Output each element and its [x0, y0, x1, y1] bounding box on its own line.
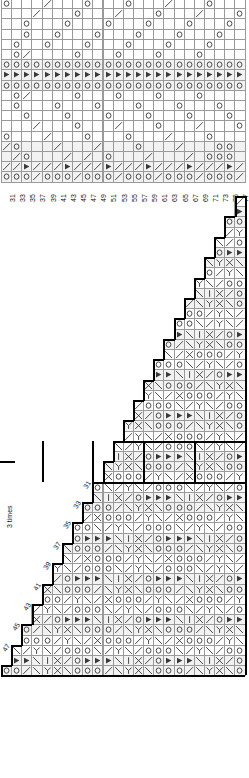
column-label: 39	[50, 194, 57, 202]
column-label: 51	[110, 194, 117, 202]
column-label: 69	[202, 194, 209, 202]
repeat-note: 3 times	[6, 505, 13, 528]
column-label: 35	[29, 194, 36, 202]
column-label: 37	[39, 194, 46, 202]
column-label: 61	[161, 194, 168, 202]
outline-bottom	[1, 675, 245, 677]
column-label: 41	[60, 194, 67, 202]
column-label: 49	[100, 194, 107, 202]
column-label: 31	[9, 194, 16, 202]
row-label: 39	[42, 561, 52, 571]
row-label: 37	[52, 540, 62, 550]
column-label: 73	[222, 194, 229, 202]
row-label: 43	[22, 601, 32, 611]
column-label: 59	[151, 194, 158, 202]
chart-page: 3133353739414345474951535557596163656769…	[0, 0, 249, 778]
column-label: 33	[19, 194, 26, 202]
repeat-tick	[42, 441, 44, 482]
column-label: 45	[80, 194, 87, 202]
column-label: 57	[141, 194, 148, 202]
row-label: 41	[32, 581, 42, 591]
column-label: 53	[121, 194, 128, 202]
column-label: 63	[171, 194, 178, 202]
repeat-boundary	[92, 482, 244, 484]
outline-right	[245, 196, 247, 675]
column-label: 43	[70, 194, 77, 202]
row-label: 45	[11, 622, 21, 632]
repeat-pointer	[0, 461, 15, 463]
chart-cell	[234, 171, 245, 182]
column-label: 47	[90, 194, 97, 202]
repeat-tick	[194, 441, 196, 482]
row-label: 47	[1, 642, 11, 652]
repeat-boundary	[113, 441, 245, 443]
row-label: 31	[82, 479, 92, 489]
column-label: 65	[182, 194, 189, 202]
repeat-tick	[143, 441, 145, 482]
column-label: 67	[192, 194, 199, 202]
repeat-tick	[92, 441, 94, 482]
row-label: 35	[62, 520, 72, 530]
row-label: 33	[72, 499, 82, 509]
column-label: 55	[131, 194, 138, 202]
column-label: 71	[212, 194, 219, 202]
